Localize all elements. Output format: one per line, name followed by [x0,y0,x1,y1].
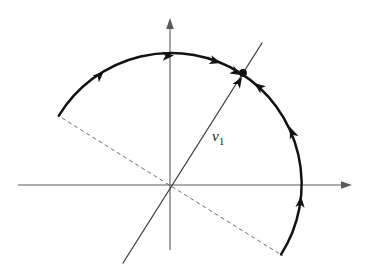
eigenvector-label-v1: v1 [212,127,224,147]
fixed-point-dot [239,69,247,77]
figure-canvas: v1 [0,0,373,276]
x-axis-arrowhead-icon [341,181,352,189]
dashed-separatrix-line [62,118,283,256]
eigenvector-label-subscript: 1 [219,136,224,147]
flow-arrow-upper-right-icon [209,55,223,67]
orbit-arc-path [59,53,302,254]
phase-portrait-diagram: v1 [0,0,373,276]
flow-arrowheads-group [93,51,306,208]
y-axis-arrowhead-icon [166,18,174,29]
